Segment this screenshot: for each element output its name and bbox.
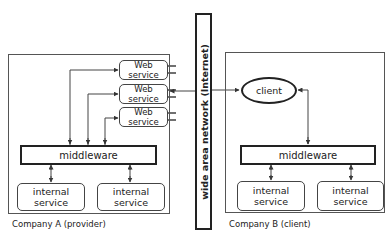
internal-service-line1: internal bbox=[33, 186, 69, 197]
network-label: wide area network (Internet) bbox=[198, 44, 209, 200]
company-b-middleware-label: middleware bbox=[279, 150, 338, 161]
client-label: client bbox=[256, 85, 282, 96]
web-service-1-line1: Web bbox=[128, 60, 158, 70]
company-b-internal-service-2: internalservice bbox=[317, 181, 384, 211]
internal-service-line2: service bbox=[113, 197, 149, 208]
web-service-1-line2: service bbox=[128, 70, 158, 80]
web-service-1: Webservice bbox=[119, 60, 168, 80]
internal-service-line2: service bbox=[332, 196, 368, 207]
client-node: client bbox=[241, 77, 297, 104]
company-b-internal-service-1: internalservice bbox=[237, 181, 305, 211]
company-a-internal-service-2: internalservice bbox=[97, 183, 165, 211]
wide-area-network-bar: wide area network (Internet) bbox=[195, 13, 212, 230]
internal-service-line2: service bbox=[33, 197, 69, 208]
company-a-middleware: middleware bbox=[20, 145, 157, 165]
company-a-internal-service-1: internalservice bbox=[17, 183, 85, 211]
internal-service-line1: internal bbox=[253, 185, 289, 196]
web-service-3-line2: service bbox=[128, 117, 158, 127]
internal-service-line1: internal bbox=[332, 185, 368, 196]
web-service-2-line2: service bbox=[128, 94, 158, 104]
company-b-caption: Company B (client) bbox=[229, 219, 311, 229]
company-b-middleware: middleware bbox=[240, 145, 376, 165]
internal-service-line1: internal bbox=[113, 186, 149, 197]
web-service-2-line1: Web bbox=[128, 84, 158, 94]
internal-service-line2: service bbox=[253, 196, 289, 207]
company-a-caption: Company A (provider) bbox=[12, 219, 106, 229]
web-service-3-line1: Web bbox=[128, 107, 158, 117]
web-service-2: Webservice bbox=[119, 84, 168, 104]
company-a-middleware-label: middleware bbox=[59, 150, 118, 161]
web-service-3: Webservice bbox=[119, 107, 168, 127]
